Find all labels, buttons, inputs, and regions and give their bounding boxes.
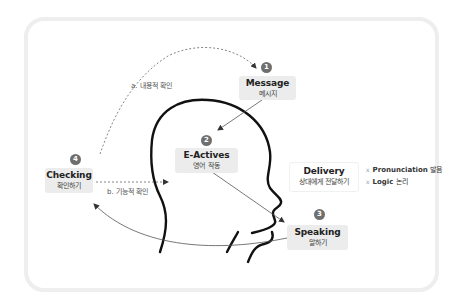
node-speaking-title: Speaking: [287, 227, 348, 238]
node-message-title: Message: [239, 78, 296, 89]
delivery-subtitle: 상대에게 전달하기: [290, 177, 358, 187]
step-4-badge: 4: [70, 154, 81, 165]
step-3-badge: 3: [314, 209, 325, 220]
criteria-item-logic: xLogic 논리: [366, 176, 442, 188]
chin-outline-icon: [248, 232, 273, 262]
node-checking-title: Checking: [45, 170, 93, 181]
node-checking: Checking 확인하기: [45, 168, 93, 193]
step-2-badge: 2: [201, 135, 212, 146]
criteria-item-pronunciation: xPronunciation 발음: [366, 164, 442, 176]
node-speaking: Speaking 말하기: [287, 225, 348, 250]
node-speaking-subtitle: 말하기: [287, 238, 348, 248]
delivery-title: Delivery: [290, 166, 358, 177]
x-mark-icon: x: [366, 166, 370, 173]
node-checking-subtitle: 확인하기: [45, 181, 93, 191]
x-mark-icon: x: [366, 178, 370, 185]
delivery-criteria-list: xPronunciation 발음 xLogic 논리: [366, 164, 442, 188]
node-message-subtitle: 메시지: [239, 89, 296, 99]
step-1-badge: 1: [261, 62, 272, 73]
node-e-actives: E-Actives 영어 작동: [175, 148, 238, 173]
delivery-box: Delivery 상대에게 전달하기: [289, 162, 359, 192]
head-outline-icon: [151, 100, 281, 252]
node-e-actives-title: E-Actives: [175, 150, 238, 161]
node-message: Message 메시지: [239, 76, 296, 100]
edge-label-a: a. 내용적 확인: [131, 80, 172, 90]
node-e-actives-subtitle: 영어 작동: [175, 161, 238, 171]
edge-label-b: b. 기능적 확인: [107, 186, 148, 196]
